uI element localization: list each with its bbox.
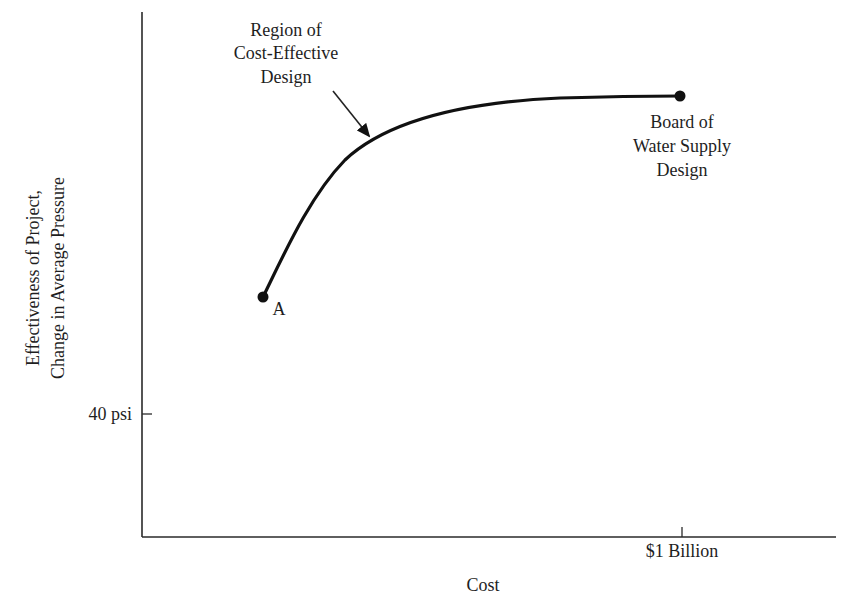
region-label-line1: Region of: [250, 20, 322, 40]
effectiveness-curve: [263, 96, 680, 297]
y-axis-title-line1: Effectiveness of Project,: [23, 190, 43, 366]
point-a-marker: [258, 292, 269, 303]
x-axis-title: Cost: [466, 575, 499, 595]
y-tick-label-40psi: 40 psi: [88, 404, 132, 424]
point-a-label: A: [273, 299, 286, 319]
board-label-line1: Board of: [650, 112, 713, 132]
board-design-point-marker: [675, 91, 686, 102]
region-label-line3: Design: [261, 67, 312, 87]
region-label-line2: Cost-Effective: [234, 43, 339, 63]
chart: 40 psi $1 Billion Cost Effectiveness of …: [0, 0, 852, 613]
region-pointer-arrow-icon: [333, 91, 369, 136]
board-label-line2: Water Supply: [633, 136, 731, 156]
board-label-line3: Design: [657, 160, 708, 180]
x-tick-label-1-billion: $1 Billion: [646, 541, 719, 561]
y-axis-title-line2: Change in Average Pressure: [48, 177, 68, 379]
